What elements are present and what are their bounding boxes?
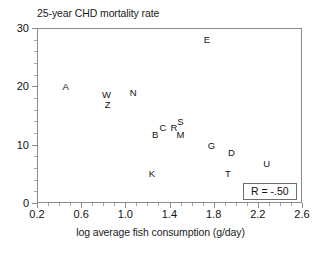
x-tick-minor-mark — [103, 203, 104, 206]
x-tick-minor-mark — [280, 203, 281, 206]
data-point-t: T — [225, 170, 231, 180]
data-point-n: N — [130, 88, 137, 98]
x-tick-minor-mark — [247, 203, 248, 206]
y-tick-label: 10 — [0, 139, 29, 151]
x-tick-label: 2.2 — [250, 208, 265, 220]
data-point-g: G — [208, 141, 215, 151]
x-tick-minor-mark — [225, 203, 226, 206]
x-tick-minor-mark — [48, 203, 49, 206]
x-tick-minor-mark — [192, 203, 193, 206]
x-axis-label: log average fish consumption (g/day) — [0, 226, 321, 238]
data-point-z: Z — [105, 100, 111, 110]
data-point-a: A — [63, 82, 69, 92]
data-point-d: D — [228, 148, 235, 158]
x-tick-minor-mark — [147, 203, 148, 206]
y-tick-label: 0 — [0, 197, 29, 209]
scatter-plot-area: AWZNEBCRSMGDUTK — [37, 28, 302, 203]
x-tick-minor-mark — [181, 203, 182, 206]
x-tick-label: 1.8 — [206, 208, 221, 220]
x-tick-minor-mark — [59, 203, 60, 206]
x-tick-label: 0.2 — [29, 208, 44, 220]
y-tick-label: 30 — [0, 22, 29, 34]
y-tick-label: 20 — [0, 80, 29, 92]
x-tick-minor-mark — [203, 203, 204, 206]
x-tick-minor-mark — [92, 203, 93, 206]
x-tick-minor-mark — [236, 203, 237, 206]
x-tick-minor-mark — [114, 203, 115, 206]
data-point-s: S — [177, 117, 183, 127]
x-tick-label: 0.6 — [74, 208, 89, 220]
data-point-c: C — [159, 123, 166, 133]
data-point-k: K — [149, 170, 155, 180]
x-tick-label: 1.4 — [162, 208, 177, 220]
chart-screenshot: 25-year CHD mortality rate 01020300.20.6… — [0, 0, 321, 255]
x-tick-minor-mark — [136, 203, 137, 206]
x-tick-minor-mark — [269, 203, 270, 206]
x-tick-minor-mark — [158, 203, 159, 206]
data-point-e: E — [204, 35, 210, 45]
data-point-u: U — [263, 159, 270, 169]
data-point-m: M — [177, 130, 185, 140]
correlation-annotation: R = -.50 — [243, 183, 297, 200]
x-tick-minor-mark — [70, 203, 71, 206]
x-tick-label: 1.0 — [118, 208, 133, 220]
x-tick-minor-mark — [291, 203, 292, 206]
x-tick-label: 2.6 — [294, 208, 309, 220]
page-title: 25-year CHD mortality rate — [37, 7, 159, 19]
data-point-b: B — [152, 130, 158, 140]
